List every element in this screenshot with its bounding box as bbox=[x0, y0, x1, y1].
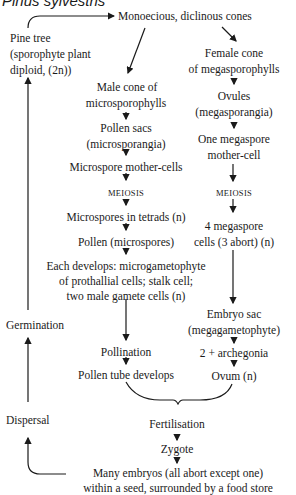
node-cones: Monoecious, diclinous cones bbox=[118, 9, 252, 23]
node-pine-tree: Pine tree bbox=[10, 31, 51, 45]
node-megaspore-mother-cell: One megaspore bbox=[184, 132, 284, 146]
node-male-cone-2: microsporophylls bbox=[76, 96, 176, 110]
node-female-cone: Female cone bbox=[184, 46, 284, 60]
node-pollen: Pollen (microspores) bbox=[56, 235, 196, 249]
node-develops: Each develops: microgametophyte bbox=[26, 259, 226, 273]
node-meiosis-left: MEIOSIS bbox=[96, 186, 156, 200]
node-pine-tree-2: (sporophyte plant bbox=[10, 47, 91, 61]
node-embryos: Many embryos (all abort except one) bbox=[60, 466, 296, 480]
node-microspore-mother-cells: Microspore mother-cells bbox=[56, 160, 196, 174]
node-dispersal: Dispersal bbox=[6, 413, 49, 427]
node-megaspore-cells: 4 megaspore bbox=[184, 219, 284, 233]
node-microspore-tetrads: Microspores in tetrads (n) bbox=[46, 210, 206, 224]
node-meiosis-right: MEIOSIS bbox=[204, 186, 264, 200]
node-megaspore-cells-2: cells (3 abort) (n) bbox=[179, 235, 289, 249]
node-archegonia: 2 + archegonia bbox=[184, 346, 284, 360]
node-ovum: Ovum (n) bbox=[184, 369, 284, 383]
node-zygote: Zygote bbox=[127, 442, 227, 456]
node-female-cone-2: of megasporophylls bbox=[174, 62, 294, 76]
node-pollen-sacs-2: (microsporangia) bbox=[76, 137, 176, 151]
node-megaspore-mother-cell-2: mother-cell bbox=[184, 148, 284, 162]
node-pollen-sacs: Pollen sacs bbox=[76, 121, 176, 135]
node-pollen-tube: Pollen tube develops bbox=[56, 368, 196, 382]
node-pollination: Pollination bbox=[76, 345, 176, 359]
node-fertilisation: Fertilisation bbox=[127, 417, 227, 431]
node-ovules-2: (megasporangia) bbox=[184, 105, 284, 119]
node-male-cone: Male cone of bbox=[86, 80, 168, 94]
node-embryo-sac: Embryo sac bbox=[184, 307, 284, 321]
node-develops-3: two male gamete cells (n) bbox=[26, 289, 226, 303]
node-pine-tree-3: diploid, (2n)) bbox=[10, 63, 71, 77]
node-embryo-sac-2: (megagametophyte) bbox=[179, 323, 289, 337]
node-ovules: Ovules bbox=[184, 89, 284, 103]
node-germination: Germination bbox=[6, 318, 64, 332]
node-embryos-2: within a seed, surrounded by a food stor… bbox=[60, 481, 296, 495]
node-develops-2: of prothallial cells; stalk cell; bbox=[26, 274, 226, 288]
